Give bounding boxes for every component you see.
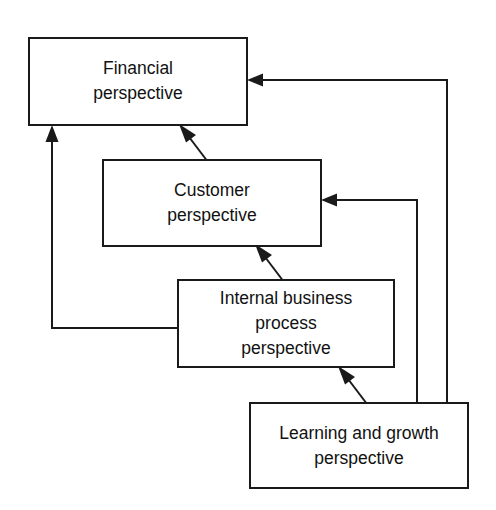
- learning-and-growth-label-line1: Learning and growth: [279, 423, 439, 443]
- arrow-customer-to-financial: [179, 124, 208, 162]
- arrow-learning-to-internal-head: [338, 366, 355, 385]
- learning-and-growth-perspective-box[interactable]: Learning and growth perspective: [250, 403, 468, 488]
- customer-perspective-label-line1: Customer: [174, 180, 250, 200]
- diagram-canvas: Financial perspective Customer perspecti…: [0, 0, 496, 510]
- arrow-internal-to-financial-head: [46, 125, 59, 142]
- arrow-customer-to-financial-head: [179, 124, 196, 143]
- internal-business-process-label-line3: perspective: [241, 338, 331, 358]
- customer-perspective-rect: [103, 160, 321, 246]
- internal-business-process-label-line2: process: [255, 313, 317, 333]
- learning-and-growth-perspective-rect: [250, 403, 468, 488]
- arrow-learning-to-customer-head: [321, 194, 337, 207]
- financial-perspective-box[interactable]: Financial perspective: [29, 38, 247, 125]
- diagram-root: Financial perspective Customer perspecti…: [0, 0, 496, 510]
- internal-business-process-label-line1: Internal business: [220, 288, 353, 308]
- learning-and-growth-label-line2: perspective: [314, 448, 404, 468]
- customer-perspective-label-line2: perspective: [167, 205, 257, 225]
- customer-perspective-box[interactable]: Customer perspective: [103, 160, 321, 246]
- arrow-learning-to-internal: [338, 366, 367, 404]
- arrow-learning-to-financial-head: [247, 74, 263, 87]
- financial-perspective-label-line1: Financial: [103, 58, 173, 78]
- arrow-internal-to-customer: [255, 244, 284, 282]
- financial-perspective-rect: [29, 38, 247, 125]
- internal-business-process-perspective-box[interactable]: Internal business process perspective: [178, 280, 394, 367]
- financial-perspective-label-line2: perspective: [93, 83, 183, 103]
